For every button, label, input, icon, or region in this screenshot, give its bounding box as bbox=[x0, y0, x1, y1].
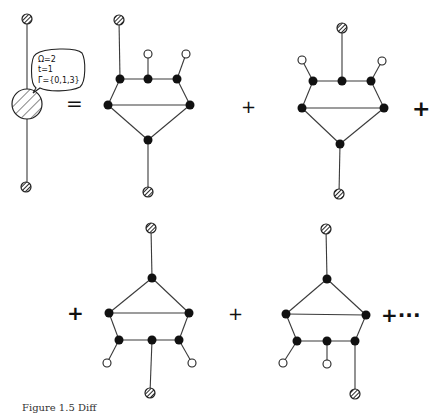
black-node bbox=[144, 75, 153, 84]
label-t: t=1 bbox=[38, 65, 53, 74]
black-node bbox=[185, 309, 194, 318]
black-node bbox=[293, 337, 302, 346]
label-gamma: Γ̄={0,1,3} bbox=[38, 76, 80, 85]
open-node bbox=[103, 359, 111, 367]
open-node bbox=[298, 56, 306, 64]
black-node bbox=[282, 310, 291, 319]
equals-sign: = bbox=[66, 91, 83, 115]
hatched-node bbox=[350, 389, 360, 399]
plus-sign-4: + bbox=[228, 303, 243, 324]
hatched-node bbox=[145, 388, 155, 398]
open-node bbox=[182, 50, 190, 58]
hatched-node bbox=[143, 187, 153, 197]
black-node bbox=[323, 275, 332, 284]
black-node bbox=[104, 101, 113, 110]
plus-ellipsis: +··· bbox=[381, 303, 421, 327]
open-node bbox=[279, 359, 287, 367]
term-4 bbox=[279, 224, 371, 399]
black-node bbox=[323, 337, 332, 346]
plus-sign-3: + bbox=[67, 301, 84, 325]
black-node bbox=[380, 104, 389, 113]
lhs-hatched-blob bbox=[12, 89, 42, 119]
black-node bbox=[175, 336, 184, 345]
plus-sign-2: + bbox=[412, 96, 430, 121]
black-node bbox=[173, 75, 182, 84]
lhs-bottom-hatched-node bbox=[21, 182, 31, 192]
black-node bbox=[362, 311, 371, 320]
hatched-node bbox=[334, 189, 344, 199]
black-node bbox=[105, 309, 114, 318]
term-1 bbox=[104, 15, 195, 197]
open-node bbox=[323, 360, 331, 368]
figure-caption: Figure 1.5 Diff bbox=[22, 402, 96, 413]
black-node bbox=[116, 75, 125, 84]
black-node bbox=[338, 77, 347, 86]
hatched-node bbox=[321, 224, 331, 234]
black-node bbox=[298, 104, 307, 113]
black-node bbox=[148, 274, 157, 283]
open-node bbox=[188, 359, 196, 367]
open-node bbox=[144, 50, 152, 58]
black-node bbox=[144, 136, 153, 145]
black-node bbox=[186, 101, 195, 110]
black-node bbox=[336, 140, 345, 149]
hatched-node bbox=[146, 223, 156, 233]
black-node bbox=[115, 336, 124, 345]
black-node bbox=[309, 77, 318, 86]
lhs-top-hatched-node bbox=[22, 14, 32, 24]
term-3 bbox=[103, 223, 196, 398]
label-omega: Ω=2 bbox=[38, 55, 56, 64]
hatched-node bbox=[337, 23, 347, 33]
hatched-node bbox=[114, 15, 124, 25]
black-node bbox=[148, 336, 157, 345]
black-node bbox=[351, 337, 360, 346]
open-node bbox=[378, 57, 386, 65]
black-node bbox=[367, 77, 376, 86]
plus-sign-1: + bbox=[241, 96, 256, 117]
term-2 bbox=[298, 23, 389, 199]
